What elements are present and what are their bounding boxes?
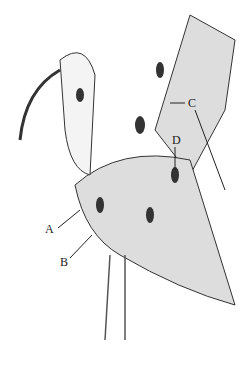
label-a: A [45,222,54,237]
label-d: D [172,133,181,148]
ibis-illustration [0,0,248,367]
ibis-lice-diagram: A B C D [0,0,248,367]
body [75,156,235,305]
label-b: B [60,255,68,270]
beak [20,70,60,140]
label-c: C [188,96,196,111]
neck [60,53,95,175]
wing-raised [155,15,235,175]
